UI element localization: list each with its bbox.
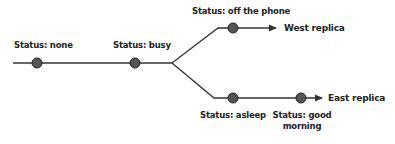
replication-diagram: [0, 0, 395, 144]
node-status-busy: [130, 58, 140, 68]
node-status-none: [32, 58, 42, 68]
label-status-busy: Status: busy: [113, 40, 171, 51]
label-status-asleep: Status: asleep: [200, 110, 266, 121]
label-status-off-the-phone: Status: off the phone: [192, 6, 290, 17]
node-status-good-morning: [296, 93, 306, 103]
label-status-good-morning: Status: good morning: [271, 110, 333, 132]
label-status-good-morning-line1: Status: good: [271, 110, 333, 121]
node-status-asleep: [228, 93, 238, 103]
label-west-replica: West replica: [284, 23, 345, 34]
west-branch-line: [172, 28, 276, 63]
node-status-off-the-phone: [228, 23, 238, 33]
label-status-none: Status: none: [14, 40, 73, 51]
label-east-replica: East replica: [328, 93, 385, 104]
label-status-good-morning-line2: morning: [271, 121, 333, 132]
